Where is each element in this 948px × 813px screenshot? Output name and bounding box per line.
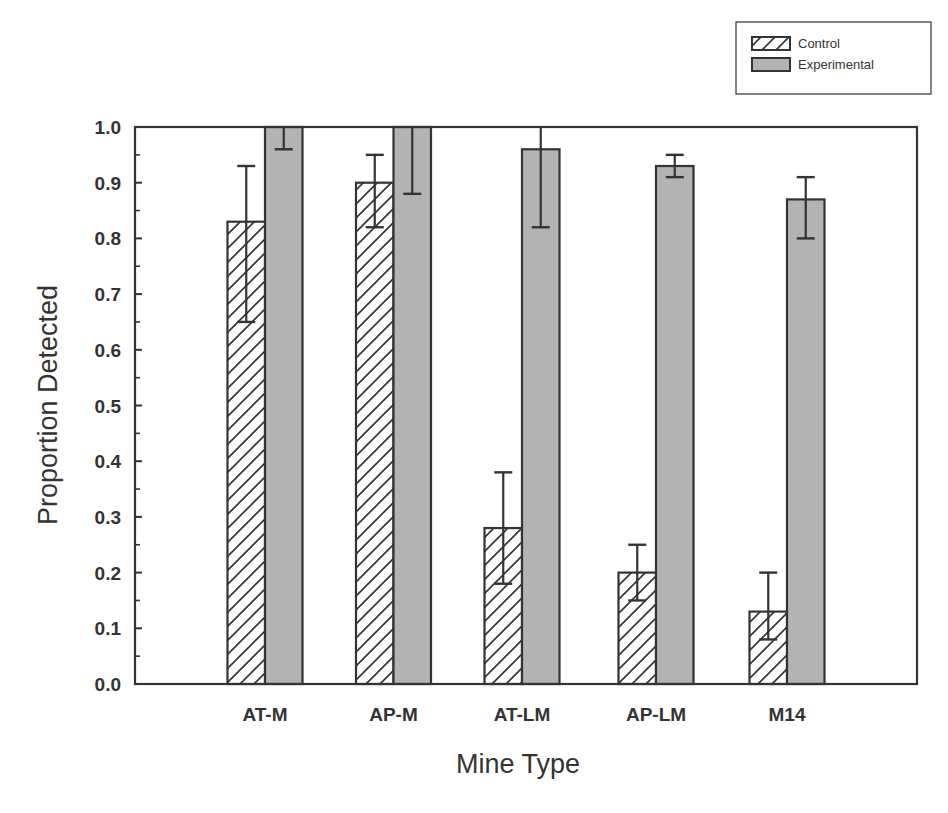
x-category-label: AP-M: [369, 704, 418, 725]
y-tick-label: 0.8: [95, 228, 121, 249]
x-category-label: AT-LM: [494, 704, 551, 725]
legend-swatch-control: [752, 37, 790, 50]
x-axis: AT-MAP-MAT-LMAP-LMM14: [242, 704, 805, 725]
legend-label-control: Control: [798, 36, 840, 51]
bar-experimental-ap-m: [394, 127, 432, 684]
y-tick-label: 0.7: [95, 284, 121, 305]
x-category-label: AT-M: [242, 704, 287, 725]
y-axis-title: Proportion Detected: [33, 285, 63, 525]
bars-group: [228, 127, 825, 684]
x-axis-title: Mine Type: [456, 749, 580, 779]
legend: Control Experimental: [736, 22, 931, 94]
y-tick-label: 0.3: [95, 507, 121, 528]
bar-experimental-m14: [787, 199, 825, 684]
bar-experimental-at-m: [265, 127, 303, 684]
bar-chart: Control Experimental 0.00.10.20.30.40.50…: [0, 0, 948, 813]
legend-label-experimental: Experimental: [798, 57, 874, 72]
x-category-label: AP-LM: [626, 704, 686, 725]
bar-control-ap-m: [356, 183, 394, 684]
y-tick-label: 0.5: [95, 396, 122, 417]
y-tick-label: 0.0: [95, 674, 121, 695]
bar-experimental-ap-lm: [656, 166, 694, 684]
y-tick-label: 0.1: [95, 618, 122, 639]
legend-swatch-experimental: [752, 58, 790, 71]
x-category-label: M14: [769, 704, 806, 725]
y-tick-label: 0.4: [95, 451, 122, 472]
y-tick-label: 1.0: [95, 117, 121, 138]
bar-experimental-at-lm: [522, 149, 560, 684]
y-tick-label: 0.6: [95, 340, 121, 361]
y-tick-label: 0.2: [95, 563, 121, 584]
y-tick-label: 0.9: [95, 173, 121, 194]
